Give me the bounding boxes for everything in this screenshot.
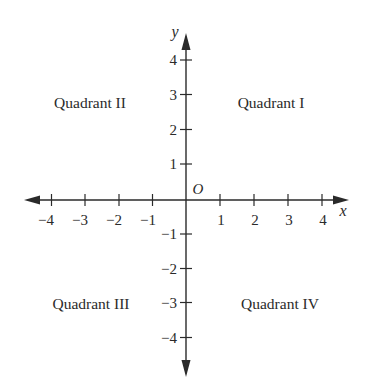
y-axis-up-arrow-icon xyxy=(182,33,191,50)
x-tick-label: 1 xyxy=(217,212,225,228)
origin-label: O xyxy=(193,181,204,197)
y-tick-label: −4 xyxy=(161,330,177,346)
x-tick-label: −4 xyxy=(38,212,54,228)
quadrant-i-label: Quadrant I xyxy=(238,94,305,111)
quadrant-ii-label: Quadrant II xyxy=(54,94,126,111)
quadrant-iii-label: Quadrant III xyxy=(52,295,129,312)
y-tick-label: −2 xyxy=(161,261,177,277)
x-tick-label: 4 xyxy=(319,212,327,228)
y-tick-label: 1 xyxy=(170,156,178,172)
x-tick-label: −1 xyxy=(140,212,156,228)
y-axis-down-arrow-icon xyxy=(182,360,191,377)
quadrant-iv-label: Quadrant IV xyxy=(241,295,320,312)
y-tick-label: 2 xyxy=(170,122,178,138)
coordinate-plane: −4 −3 −2 −1 1 2 3 4 x 4 3 2 1 −1 −2 −3 −… xyxy=(0,0,372,390)
y-tick-label: −3 xyxy=(161,295,177,311)
y-tick-label: 3 xyxy=(170,87,178,103)
x-tick-label: −2 xyxy=(106,212,122,228)
x-tick-label: 3 xyxy=(285,212,293,228)
y-axis-label: y xyxy=(169,23,179,41)
x-tick-label: 2 xyxy=(251,212,259,228)
y-tick-label: −1 xyxy=(161,226,177,242)
x-axis-left-arrow-icon xyxy=(24,196,40,205)
x-axis-label: x xyxy=(338,202,346,219)
y-tick-label: 4 xyxy=(170,52,178,68)
x-tick-label: −3 xyxy=(72,212,88,228)
